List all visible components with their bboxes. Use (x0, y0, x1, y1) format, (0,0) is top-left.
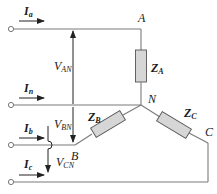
node-label-c: C (205, 125, 214, 139)
terminal-n (8, 102, 13, 107)
node-label-n: N (147, 92, 157, 106)
node-label-a: A (137, 11, 146, 25)
impedance-za (136, 50, 147, 82)
circuit-diagram: Ia In Ib Ic VAN VBN VCN ZA ZB ZC A N B C (0, 0, 217, 194)
label-in: In (23, 81, 34, 96)
label-ia: Ia (23, 4, 33, 19)
terminal-a (8, 26, 13, 31)
label-vbn: VBN (54, 117, 72, 132)
label-zb: ZB (87, 110, 101, 125)
terminal-c (8, 179, 13, 184)
phase-c-wire-left (141, 105, 160, 117)
label-za: ZA (150, 61, 164, 76)
label-ic: Ic (23, 157, 33, 172)
label-zc: ZC (183, 106, 197, 121)
phase-b-wire-right (123, 105, 141, 115)
voltage-arrow-vcn (48, 126, 52, 172)
label-van: VAN (54, 59, 72, 74)
node-label-b: B (71, 149, 79, 163)
phase-b-wire-left (75, 134, 92, 145)
terminal-b (8, 142, 13, 147)
label-ib: Ib (23, 121, 33, 136)
